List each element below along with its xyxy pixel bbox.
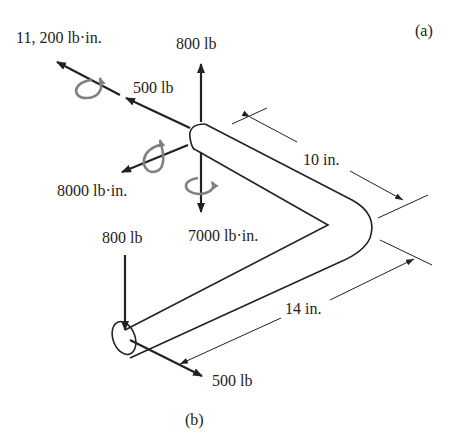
end-forces [125,255,202,376]
force-label-500-end: 500 lb [212,373,252,389]
dimension-label-10in: 10 in. [303,152,339,168]
moment-label-7000: 7000 lb·in. [188,228,258,244]
force-label-800-up: 800 lb [176,36,216,52]
panel-label-a: (a) [415,23,433,39]
dimension-label-14in: 14 in. [285,301,321,317]
force-label-800-down: 800 lb [102,230,142,246]
pipe-bracket-diagram: (a) 11, 200 lb·in. 800 lb 500 lb 10 in. … [0,0,461,448]
force-label-500-x: 500 lb [133,80,173,96]
panel-label-b: (b) [185,412,204,428]
moment-label-11200: 11, 200 lb·in. [16,30,102,46]
moment-label-8000: 8000 lb·in. [57,183,127,199]
